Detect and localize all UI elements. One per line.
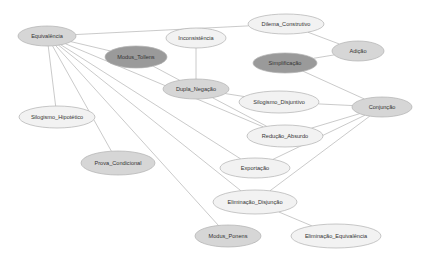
node-label: Silogismo_Disjuntivo <box>253 99 305 105</box>
node-label: Inconsistência <box>178 35 214 41</box>
node-label: Modus_Ponens <box>209 233 248 239</box>
node-label: Conjunção <box>369 104 396 110</box>
node-label: Dupla_Negação <box>176 86 216 92</box>
edge-adicao-simplificacao <box>313 55 334 58</box>
node-label: Equivalência <box>31 33 64 39</box>
node-equivalencia[interactable]: Equivalência <box>18 26 76 46</box>
edge-equivalencia-modus_tollens <box>71 42 110 51</box>
node-label: Prova_Condicional <box>95 160 142 166</box>
node-label: Eliminação_Disjunção <box>227 199 282 205</box>
node-silogismo_hipotetico[interactable]: Silogismo_Hipotético <box>19 106 95 128</box>
node-modus_tollens[interactable]: Modus_Tollens <box>105 46 167 68</box>
node-exportacao[interactable]: Exportação <box>220 158 290 178</box>
node-label: Eliminação_Equivalência <box>305 233 368 239</box>
node-label: Redução_Absurdo <box>262 133 308 139</box>
graph-nodes: EquivalênciaDilema_ConstrutivoInconsistê… <box>18 14 412 248</box>
node-dilema_construtivo[interactable]: Dilema_Construtivo <box>248 14 324 34</box>
node-adicao[interactable]: Adição <box>332 41 384 61</box>
edge-equivalencia-silogismo_hipotetico <box>48 46 55 106</box>
node-dupla_negacao[interactable]: Dupla_Negação <box>163 79 229 99</box>
node-prova_condicional[interactable]: Prova_Condicional <box>81 151 155 175</box>
edge-conjuncao-simplificacao <box>303 71 364 99</box>
edge-dilema_construtivo-adicao <box>308 32 340 44</box>
node-eliminacao_equivalencia[interactable]: Eliminação_Equivalência <box>291 224 381 248</box>
node-modus_ponens[interactable]: Modus_Ponens <box>195 225 261 247</box>
edge-equivalencia-prova_condicional <box>52 46 111 151</box>
node-label: Exportação <box>241 165 269 171</box>
node-eliminacao_disjuncao[interactable]: Eliminação_Disjunção <box>213 190 297 214</box>
graph-edges <box>48 26 370 226</box>
node-reducao_absurdo[interactable]: Redução_Absurdo <box>247 125 323 147</box>
edge-equivalencia-modus_ponens <box>56 46 219 226</box>
rule-graph: EquivalênciaDilema_ConstrutivoInconsistê… <box>0 0 428 264</box>
node-label: Dilema_Construtivo <box>262 21 311 27</box>
node-inconsistencia[interactable]: Inconsistência <box>166 28 226 48</box>
node-conjuncao[interactable]: Conjunção <box>352 97 412 117</box>
node-label: Adição <box>349 48 366 54</box>
node-silogismo_disjuntivo[interactable]: Silogismo_Disjuntivo <box>239 91 319 113</box>
edge-modus_tollens-dupla_negacao <box>153 66 180 80</box>
node-simplificacao[interactable]: Simplificação <box>253 53 317 73</box>
edge-eliminacao_disjuncao-eliminacao_equivalencia <box>279 212 312 226</box>
node-label: Silogismo_Hipotético <box>31 114 83 120</box>
edge-dupla_negacao-silogismo_disjuntivo <box>225 94 244 97</box>
node-label: Modus_Tollens <box>117 54 155 60</box>
node-label: Simplificação <box>269 60 302 66</box>
edge-conjuncao-silogismo_disjuntivo <box>318 104 352 106</box>
